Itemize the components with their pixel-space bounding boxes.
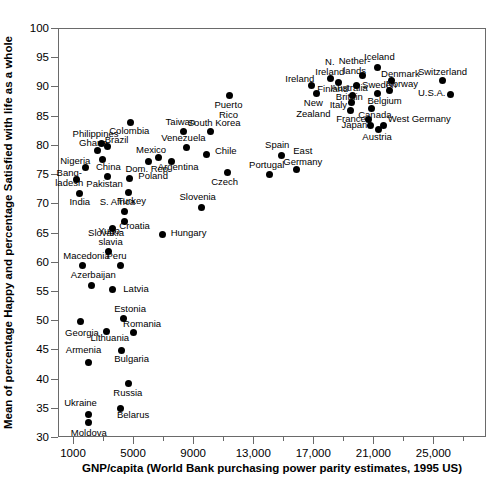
data-point [183, 144, 190, 151]
data-point [98, 140, 105, 147]
data-point [180, 128, 187, 135]
data-point-label: Pakistan [86, 179, 122, 190]
scatter-chart-figure: 3035404550556065707580859095100 10005000… [0, 0, 502, 483]
data-point-label: U.S.A. [418, 88, 445, 99]
data-point [207, 128, 214, 135]
data-point-label: Colombia [109, 126, 149, 137]
x-axis-title: GNP/capita (World Bank purchasing power … [58, 462, 486, 474]
data-point [374, 64, 381, 71]
x-tick-label: 1000 [60, 447, 86, 459]
x-tick-minor [343, 437, 344, 441]
data-point [125, 380, 132, 387]
data-point-label: Puerto Rico [214, 100, 242, 121]
data-point-label: Azerbaijan [71, 270, 116, 281]
data-point [203, 151, 210, 158]
y-tick-label: 75 [36, 168, 49, 180]
x-tick-minor [163, 437, 164, 441]
data-point [266, 171, 273, 178]
y-tick [51, 86, 58, 87]
data-point-label: Mexico [136, 145, 166, 156]
x-tick-label: 21,000 [356, 447, 391, 459]
x-tick-minor [283, 437, 284, 441]
y-tick [51, 57, 58, 58]
data-point-label: Ukraine [64, 398, 97, 409]
data-point-label: India [69, 197, 90, 208]
data-point [88, 282, 95, 289]
data-point [130, 329, 137, 336]
y-tick-label: 95 [36, 51, 49, 63]
y-tick [51, 203, 58, 204]
y-tick [51, 28, 58, 29]
x-tick [253, 437, 254, 444]
data-point-label: Armenia [66, 345, 101, 356]
data-point-label: Estonia [114, 304, 146, 315]
data-point [79, 262, 86, 269]
data-point-label: Ireland [285, 74, 314, 85]
y-tick-label: 45 [36, 343, 49, 355]
data-point-label: Bulgaria [114, 354, 149, 365]
x-tick [373, 437, 374, 444]
y-tick-label: 60 [36, 256, 49, 268]
data-point-label: Switzerland [418, 67, 467, 78]
x-tick [433, 437, 434, 444]
data-point [439, 77, 446, 84]
data-point-label: Norway [386, 79, 418, 90]
y-tick-label: 70 [36, 197, 49, 209]
plot-area: 3035404550556065707580859095100 10005000… [58, 28, 486, 437]
y-tick-label: 50 [36, 314, 49, 326]
data-point-label: Canada [358, 110, 391, 121]
data-point-label: Russia [113, 388, 142, 399]
data-point-label: Iceland [364, 52, 395, 63]
data-point [198, 204, 205, 211]
data-point [117, 262, 124, 269]
data-point-label: Belarus [117, 410, 149, 421]
data-point-label: Romania [123, 319, 161, 330]
data-point [85, 411, 92, 418]
y-tick-label: 55 [36, 285, 49, 297]
x-tick-minor [223, 437, 224, 441]
data-point [447, 91, 454, 98]
data-point-label: Hungary [171, 228, 207, 239]
data-point-label: Croatia [119, 221, 150, 232]
data-point [85, 359, 92, 366]
x-tick-label: 5000 [120, 447, 146, 459]
x-tick [133, 437, 134, 444]
data-point [109, 286, 116, 293]
x-tick-label: 13,000 [236, 447, 271, 459]
data-point [85, 419, 92, 426]
y-tick-label: 90 [36, 80, 49, 92]
y-tick [51, 291, 58, 292]
y-axis-title: Mean of percentage Happy and percentage … [0, 28, 16, 437]
data-point-label: West Germany [388, 114, 451, 125]
data-point-label: Turkey [117, 196, 146, 207]
x-tick-label: 25,000 [416, 447, 451, 459]
y-tick [51, 145, 58, 146]
y-tick [51, 349, 58, 350]
x-tick [313, 437, 314, 444]
y-tick [51, 408, 58, 409]
data-point-label: New Zealand [296, 98, 330, 119]
data-point-label: Nigeria [60, 156, 90, 167]
data-point-label: Georgia [65, 328, 99, 339]
data-point-label: Spain [265, 140, 289, 151]
y-tick [51, 437, 58, 438]
data-point-label: Moldova [71, 428, 107, 439]
data-point [126, 175, 133, 182]
data-point-label: Slovenia [179, 192, 215, 203]
data-point-label: Chile [215, 146, 237, 157]
y-tick-label: 65 [36, 227, 49, 239]
y-tick-label: 80 [36, 139, 49, 151]
data-point-label: Bang- ladesh [55, 168, 83, 189]
y-tick-label: 100 [30, 22, 49, 34]
data-point [159, 231, 166, 238]
data-point [121, 208, 128, 215]
data-point-label: Japan [341, 120, 367, 131]
y-tick-label: 40 [36, 373, 49, 385]
x-tick-minor [403, 437, 404, 441]
data-point-label: Austria [362, 132, 392, 143]
y-tick-label: 35 [36, 402, 49, 414]
y-tick [51, 379, 58, 380]
y-tick [51, 116, 58, 117]
data-point [77, 318, 84, 325]
x-tick-label: 17,000 [296, 447, 331, 459]
